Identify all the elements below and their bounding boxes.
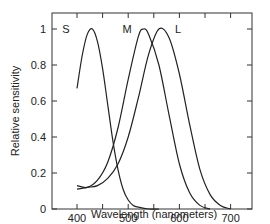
x-tick-label: 400 — [68, 212, 86, 224]
series-label-l: L — [175, 23, 181, 35]
y-tick-label: 0.8 — [31, 59, 46, 71]
axis-ticks: 40050060070000.20.40.60.81 — [31, 13, 252, 224]
curve-s — [77, 29, 159, 209]
series-label-s: S — [62, 23, 69, 35]
x-axis-label: Wavelength (nanometers) — [91, 208, 217, 220]
y-tick-label: 0.4 — [31, 131, 46, 143]
y-axis-label: Relative sensitivity — [9, 65, 21, 156]
curves — [77, 28, 231, 209]
y-tick-label: 0.6 — [31, 95, 46, 107]
curve-m — [77, 29, 210, 209]
y-tick-label: 1 — [40, 23, 46, 35]
y-tick-label: 0 — [40, 203, 46, 215]
y-tick-label: 0.2 — [31, 167, 46, 179]
series-label-m: M — [122, 23, 131, 35]
sensitivity-chart: 40050060070000.20.40.60.81 SML Wavelengt… — [0, 0, 270, 224]
x-tick-label: 700 — [221, 212, 239, 224]
